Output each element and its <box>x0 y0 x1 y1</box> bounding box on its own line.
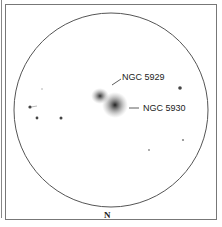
leader-line-ngc5929 <box>112 79 121 85</box>
galaxy-ngc5930 <box>102 92 128 118</box>
label-ngc5929: NGC 5929 <box>122 72 165 82</box>
north-label: N <box>104 210 111 220</box>
eyepiece-field <box>0 0 222 227</box>
label-ngc5930: NGC 5930 <box>143 103 186 113</box>
